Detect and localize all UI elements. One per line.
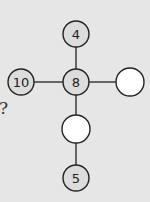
question-mark: ? bbox=[0, 98, 8, 118]
node-bottom-label: 5 bbox=[72, 171, 80, 186]
connector-lines bbox=[34, 47, 116, 165]
node-right-empty[interactable] bbox=[116, 68, 144, 96]
node-left-label: 10 bbox=[13, 75, 30, 90]
node-center-label: 8 bbox=[72, 75, 80, 90]
node-lower-empty[interactable] bbox=[62, 115, 90, 143]
node-top: 4 bbox=[63, 21, 89, 47]
node-center: 8 bbox=[63, 69, 89, 95]
node-bottom: 5 bbox=[63, 165, 89, 191]
node-top-label: 4 bbox=[72, 27, 80, 42]
node-left: 10 bbox=[8, 69, 34, 95]
number-cross-diagram: 4 10 8 5 bbox=[0, 0, 150, 202]
